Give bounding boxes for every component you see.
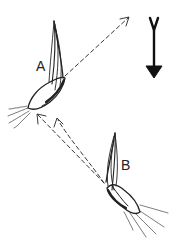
label-a: A — [36, 59, 45, 73]
dashed-trajectory-a — [65, 18, 128, 76]
jet-streams-b — [124, 205, 168, 237]
dashed-trajectories-b — [38, 115, 104, 183]
gravity-arrow-icon — [146, 18, 162, 78]
organism-a — [28, 21, 65, 109]
diagram-canvas: A B — [0, 0, 178, 251]
organism-b — [106, 133, 140, 213]
jet-streams-a — [8, 106, 30, 128]
arrowheads-trajectories-b — [37, 114, 63, 127]
label-b: B — [121, 158, 130, 172]
